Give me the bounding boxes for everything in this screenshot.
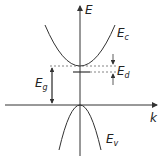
energy-axis-label: E [85, 3, 93, 17]
donor-level-label: Ed [117, 64, 131, 80]
gap-label: Eg [35, 76, 48, 92]
band-diagram: E k Ec Ed Eg Ev [0, 0, 167, 159]
conduction-band-label: Ec [117, 26, 130, 42]
k-axis-label: k [150, 111, 158, 125]
valence-band-label: Ev [106, 132, 119, 148]
